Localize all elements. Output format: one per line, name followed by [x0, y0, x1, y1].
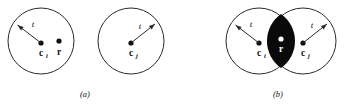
figure-canvas: c i t r c j t (a) — [0, 0, 353, 106]
radius-label-a-right: t — [139, 21, 142, 31]
figure-root: c i t r c j t (a) — [0, 0, 353, 106]
radius-label-b-right: t — [311, 20, 314, 30]
panel-a-caption: (a) — [80, 89, 90, 99]
circle-a-right-center-subscript: j — [135, 52, 138, 59]
point-r-panel-a: r — [56, 38, 61, 57]
circle-b-right-center-subscript: j — [307, 52, 310, 59]
radius-label-a-left: t — [32, 19, 35, 29]
circle-b-left-center: c i t — [236, 19, 267, 59]
circle-a-left-center-subscript: i — [46, 52, 48, 59]
circle-a-left: c i t — [8, 8, 74, 74]
circle-b-right-center-label: c — [301, 48, 305, 58]
circle-b-right-center: c j t — [300, 20, 327, 59]
circle-a-right-center-label: c — [129, 48, 133, 58]
point-r-panel-a-dot — [56, 38, 61, 43]
circle-b-left-center-subscript: i — [264, 52, 266, 59]
panel-b: c i t c j t r (b) — [226, 8, 336, 99]
radius-label-b-left: t — [250, 19, 253, 29]
panel-a: c i t r c j t (a) — [8, 8, 164, 99]
point-r-panel-a-label: r — [57, 47, 62, 57]
circle-b-left-center-label: c — [257, 48, 261, 58]
panel-b-caption: (b) — [273, 89, 283, 99]
point-r-panel-b-dot — [278, 36, 283, 41]
circle-a-right: c j t — [98, 8, 164, 74]
point-r-panel-b: r — [278, 36, 283, 54]
circle-a-left-center-label: c — [39, 48, 43, 58]
